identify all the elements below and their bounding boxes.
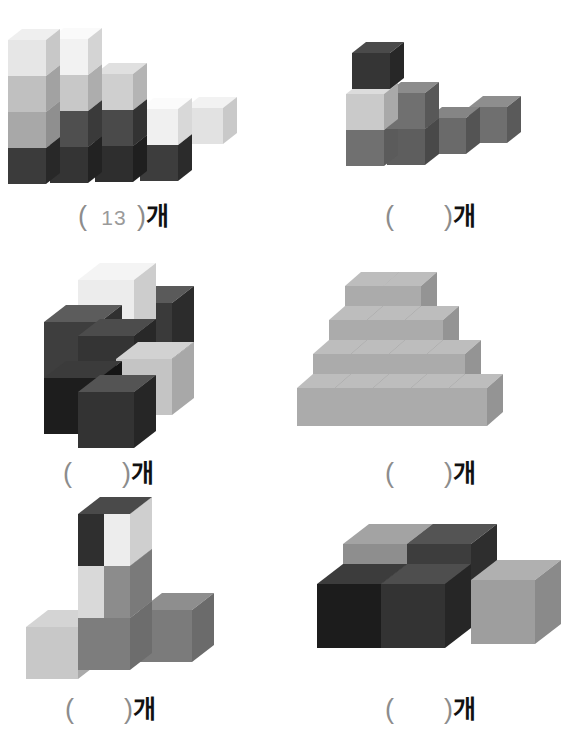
problem-4: ( ) 개 [283, 258, 565, 503]
cube-face-highlight [78, 566, 104, 618]
worksheet-page: ( 13 ) 개 [0, 0, 565, 750]
unit-label: 개 [146, 204, 169, 229]
cube-figure-4 [283, 258, 565, 458]
cube [449, 374, 503, 426]
answer-line-1[interactable]: ( 13 ) 개 [78, 203, 169, 230]
problem-1: ( 13 ) 개 [0, 0, 282, 250]
cube [78, 375, 156, 448]
answer-line-5[interactable]: ( ) 개 [65, 696, 156, 723]
unit-label: 개 [453, 204, 476, 229]
unit-label: 개 [453, 697, 476, 722]
answer-line-2[interactable]: ( ) 개 [385, 203, 476, 230]
cube [352, 42, 404, 89]
unit-label: 개 [131, 461, 154, 486]
problem-5: ( ) 개 [0, 508, 282, 750]
close-paren: ) [444, 460, 453, 487]
problem-6: ( ) 개 [283, 508, 565, 750]
cube-figure-6 [283, 508, 565, 693]
answer-line-6[interactable]: ( ) 개 [385, 696, 476, 723]
cube-figure-2 [283, 0, 565, 210]
answer-line-4[interactable]: ( ) 개 [385, 460, 476, 487]
close-paren: ) [444, 203, 453, 230]
open-paren: ( [385, 696, 394, 723]
problem-2: ( ) 개 [283, 0, 565, 250]
open-paren: ( [65, 696, 74, 723]
answer-line-3[interactable]: ( ) 개 [63, 460, 154, 487]
close-paren: ) [137, 203, 146, 230]
open-paren: ( [63, 460, 72, 487]
close-paren: ) [444, 696, 453, 723]
open-paren: ( [385, 203, 394, 230]
unit-label: 개 [133, 697, 156, 722]
cube [8, 29, 60, 76]
close-paren: ) [124, 696, 133, 723]
cube-figure-5 [0, 508, 282, 693]
cube [471, 560, 561, 644]
problem-3: ( ) 개 [0, 258, 282, 503]
open-paren: ( [385, 460, 394, 487]
unit-label: 개 [453, 461, 476, 486]
cube [381, 564, 471, 648]
cube-figure-1 [0, 0, 282, 210]
cube [346, 83, 398, 130]
cube [185, 97, 237, 144]
open-paren: ( [78, 203, 87, 230]
cube-figure-3 [0, 258, 282, 458]
close-paren: ) [122, 460, 131, 487]
cube [140, 98, 192, 145]
cube [95, 63, 147, 110]
answer-blank-1[interactable]: 13 [94, 207, 134, 228]
